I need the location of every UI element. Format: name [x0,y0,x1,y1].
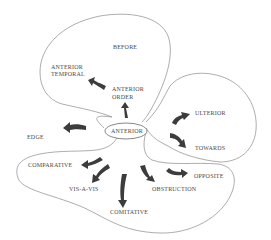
comparative-label: COMPARATIVE [28,162,72,169]
arrow-to-opposite-icon [166,168,188,178]
towards-label: TOWARDS [195,145,225,152]
anterior-temporal-label-line1: ANTERIOR [51,64,83,71]
arrow-to-comparative-icon [81,157,103,169]
arrow-to-obstruction-icon [140,165,155,182]
arrow-to-ulterior-icon [172,112,190,125]
anterior-order-label-line1: ANTERIOR [112,86,144,93]
comitative-label: COMITATIVE [110,209,148,216]
before-label: BEFORE [113,44,137,51]
arrow-to-anterior-temporal-icon [88,77,106,90]
edge-label: EDGE [27,134,44,141]
anterior-order-label-line2: ORDER [112,94,133,101]
ulterior-label: ULTERIOR [195,110,226,117]
obstruction-label: OBSTRUCTION [152,186,196,193]
semantic-network-diagram [0,0,271,240]
vis-a-vis-label: VIS-A-VIS [69,186,98,193]
anterior-temporal-label-line2: TEMPORAL [51,71,85,78]
arrow-to-vis-a-vis-icon [92,164,110,183]
center-node-label: ANTERIOR [111,128,143,135]
arrow-to-comitative-icon [118,174,127,208]
opposite-label: OPPOSITE [194,173,224,180]
arrow-to-edge-icon [63,122,86,133]
arrow-to-towards-icon [170,133,186,148]
arrow-to-anterior-order-icon [121,102,129,118]
